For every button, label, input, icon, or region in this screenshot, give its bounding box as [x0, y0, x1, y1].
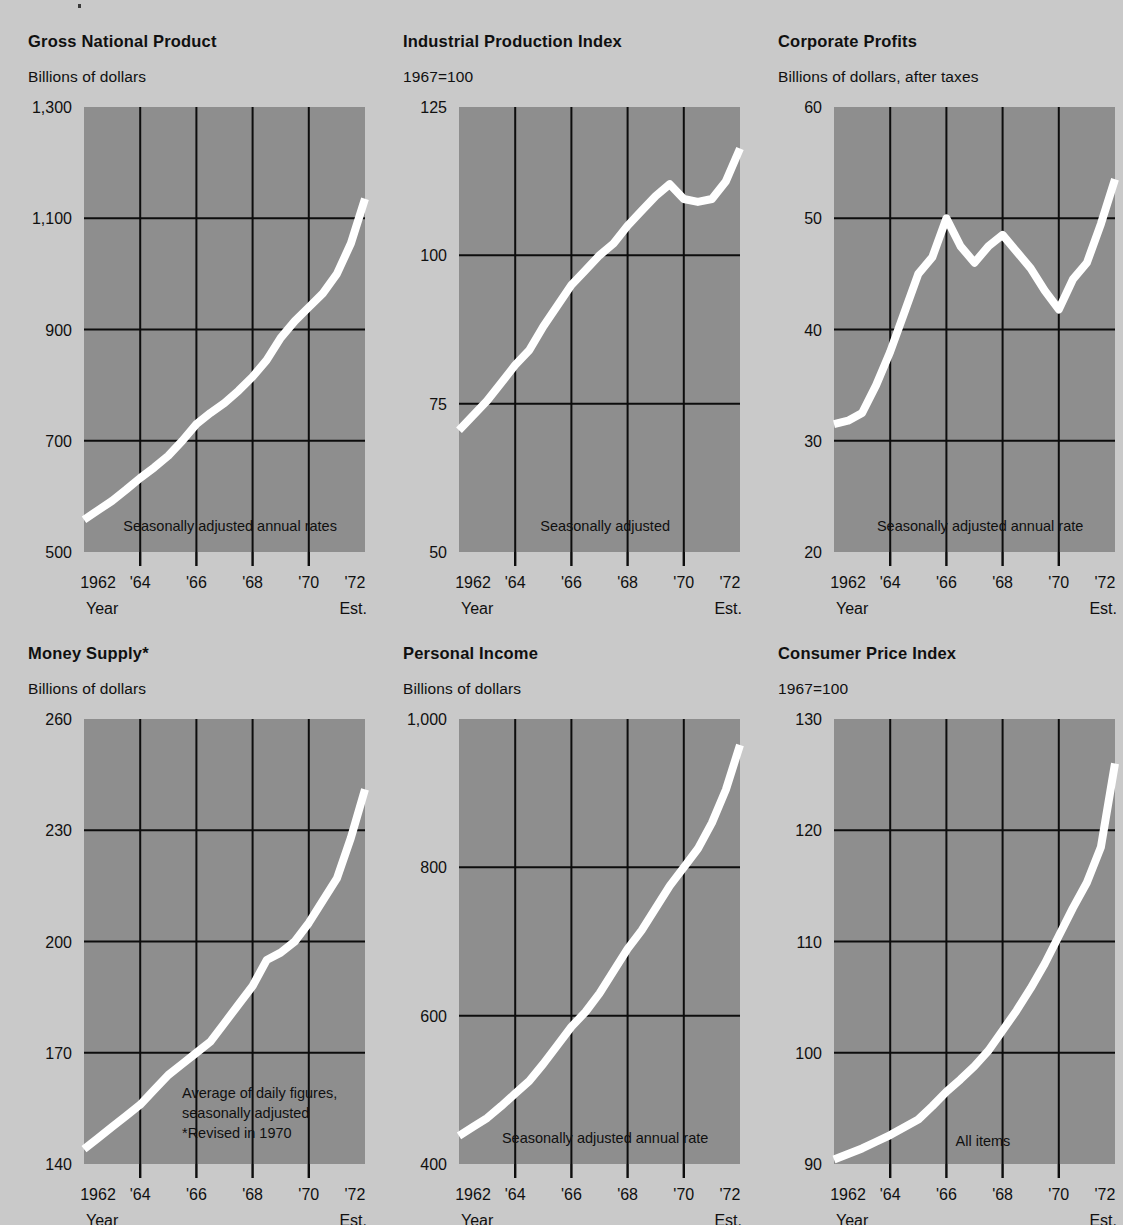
chart-svg-consumer-price-index: 130120110100901962'64'66'68'70'72YearEst… — [750, 704, 1123, 1224]
x-tick-label: 1962 — [830, 574, 866, 591]
y-tick-label: 400 — [420, 1156, 447, 1173]
x-axis-name: Year — [836, 1212, 869, 1225]
x-axis-estimate-note: Est. — [714, 1212, 742, 1225]
x-tick-label: '66 — [561, 574, 582, 591]
chart-annotation-line: All items — [956, 1133, 1011, 1149]
chart-annotation-line: *Revised in 1970 — [182, 1125, 292, 1141]
y-tick-label: 1,100 — [32, 210, 72, 227]
y-tick-label: 90 — [804, 1156, 822, 1173]
chart-panel-corporate-profits: Corporate ProfitsBillions of dollars, af… — [750, 0, 1117, 612]
x-tick-label: 1962 — [455, 1186, 491, 1203]
x-tick-label: 1962 — [80, 574, 116, 591]
y-tick-label: 50 — [429, 544, 447, 561]
chart-svg-gross-national-product: 1,3001,1009007005001962'64'66'68'70'72Ye… — [0, 92, 375, 612]
y-tick-label: 260 — [45, 711, 72, 728]
x-tick-label: '64 — [880, 1186, 901, 1203]
plot-background — [459, 719, 740, 1164]
chart-svg-industrial-production-index: 12510075501962'64'66'68'70'72YearEst.Sea… — [375, 92, 750, 612]
x-tick-label: '68 — [617, 1186, 638, 1203]
x-tick-label: '64 — [130, 574, 151, 591]
y-tick-label: 120 — [795, 822, 822, 839]
chart-subtitle-industrial-production-index: 1967=100 — [403, 68, 473, 86]
x-tick-label: '64 — [505, 1186, 526, 1203]
y-tick-label: 75 — [429, 396, 447, 413]
x-tick-label: '72 — [720, 574, 741, 591]
y-tick-label: 40 — [804, 322, 822, 339]
chart-plot-gross-national-product: 1,3001,1009007005001962'64'66'68'70'72Ye… — [0, 92, 375, 612]
x-tick-label: '70 — [673, 574, 694, 591]
y-tick-label: 30 — [804, 433, 822, 450]
x-axis-name: Year — [461, 1212, 494, 1225]
chart-title-personal-income: Personal Income — [403, 644, 538, 663]
x-tick-label: '68 — [992, 1186, 1013, 1203]
chart-annotation-line: Seasonally adjusted annual rate — [877, 518, 1083, 534]
y-tick-label: 700 — [45, 433, 72, 450]
chart-subtitle-consumer-price-index: 1967=100 — [778, 680, 848, 698]
x-tick-label: '70 — [298, 574, 319, 591]
x-tick-label: '70 — [298, 1186, 319, 1203]
chart-panel-personal-income: Personal IncomeBillions of dollars1,0008… — [375, 612, 750, 1225]
chart-annotation-line: seasonally adjusted — [182, 1105, 309, 1121]
x-axis-estimate-note: Est. — [1089, 1212, 1117, 1225]
x-tick-label: '64 — [505, 574, 526, 591]
x-tick-label: '66 — [936, 574, 957, 591]
chart-svg-corporate-profits: 60504030201962'64'66'68'70'72YearEst.Sea… — [750, 92, 1123, 612]
x-tick-label: '66 — [561, 1186, 582, 1203]
chart-title-money-supply: Money Supply* — [28, 644, 149, 663]
chart-panel-gross-national-product: Gross National ProductBillions of dollar… — [0, 0, 375, 612]
chart-svg-personal-income: 1,0008006004001962'64'66'68'70'72YearEst… — [375, 704, 750, 1224]
x-tick-label: '68 — [242, 1186, 263, 1203]
x-tick-label: '70 — [1048, 1186, 1069, 1203]
y-tick-label: 800 — [420, 859, 447, 876]
x-tick-label: '72 — [720, 1186, 741, 1203]
y-tick-label: 230 — [45, 822, 72, 839]
chart-annotation-line: Seasonally adjusted annual rates — [123, 518, 337, 534]
chart-plot-personal-income: 1,0008006004001962'64'66'68'70'72YearEst… — [375, 704, 750, 1224]
y-tick-label: 1,300 — [32, 99, 72, 116]
x-axis-estimate-note: Est. — [339, 1212, 367, 1225]
x-tick-label: 1962 — [455, 574, 491, 591]
y-tick-label: 60 — [804, 99, 822, 116]
x-tick-label: '72 — [1095, 574, 1116, 591]
chart-plot-corporate-profits: 60504030201962'64'66'68'70'72YearEst.Sea… — [750, 92, 1123, 612]
x-tick-label: '70 — [673, 1186, 694, 1203]
chart-panel-money-supply: Money Supply*Billions of dollars26023020… — [0, 612, 375, 1225]
x-tick-label: '70 — [1048, 574, 1069, 591]
y-tick-label: 20 — [804, 544, 822, 561]
x-tick-label: '66 — [186, 1186, 207, 1203]
chart-plot-money-supply: 2602302001701401962'64'66'68'70'72YearEs… — [0, 704, 375, 1224]
chart-annotation-line: Seasonally adjusted — [540, 518, 670, 534]
x-axis-name: Year — [86, 1212, 119, 1225]
y-tick-label: 500 — [45, 544, 72, 561]
x-tick-label: 1962 — [830, 1186, 866, 1203]
x-tick-label: '68 — [617, 574, 638, 591]
y-tick-label: 600 — [420, 1008, 447, 1025]
chart-subtitle-money-supply: Billions of dollars — [28, 680, 146, 698]
x-tick-label: '68 — [242, 574, 263, 591]
x-tick-label: '72 — [345, 1186, 366, 1203]
chart-panel-consumer-price-index: Consumer Price Index1967=100130120110100… — [750, 612, 1117, 1225]
y-tick-label: 130 — [795, 711, 822, 728]
x-tick-label: '66 — [186, 574, 207, 591]
chart-panel-industrial-production-index: Industrial Production Index1967=10012510… — [375, 0, 750, 612]
y-tick-label: 100 — [795, 1045, 822, 1062]
y-tick-label: 170 — [45, 1045, 72, 1062]
plot-background — [459, 107, 740, 552]
chart-annotation-line: Seasonally adjusted annual rate — [502, 1130, 708, 1146]
y-tick-label: 50 — [804, 210, 822, 227]
chart-subtitle-personal-income: Billions of dollars — [403, 680, 521, 698]
y-tick-label: 140 — [45, 1156, 72, 1173]
chart-title-industrial-production-index: Industrial Production Index — [403, 32, 622, 51]
y-tick-label: 900 — [45, 322, 72, 339]
chart-annotation-line: Average of daily figures, — [182, 1085, 337, 1101]
chart-title-gross-national-product: Gross National Product — [28, 32, 217, 51]
y-tick-label: 200 — [45, 934, 72, 951]
chart-plot-consumer-price-index: 130120110100901962'64'66'68'70'72YearEst… — [750, 704, 1123, 1224]
x-tick-label: '68 — [992, 574, 1013, 591]
y-tick-label: 100 — [420, 247, 447, 264]
chart-subtitle-corporate-profits: Billions of dollars, after taxes — [778, 68, 978, 86]
chart-svg-money-supply: 2602302001701401962'64'66'68'70'72YearEs… — [0, 704, 375, 1224]
y-tick-label: 110 — [796, 934, 822, 951]
x-tick-label: '64 — [130, 1186, 151, 1203]
